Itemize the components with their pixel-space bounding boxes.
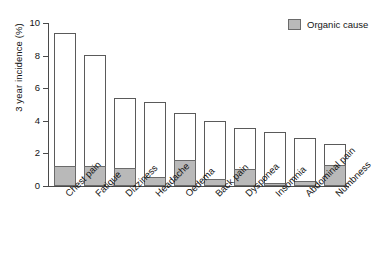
bar-group[interactable] (264, 23, 286, 186)
bar-organic-cause[interactable] (324, 165, 346, 186)
legend: Organic cause (288, 19, 368, 30)
bar-organic-cause[interactable] (54, 166, 76, 186)
bar-group[interactable] (234, 23, 256, 186)
y-tick-label: 10 (29, 17, 40, 28)
bar-group[interactable] (114, 23, 136, 186)
bar-total[interactable] (264, 132, 286, 186)
bar-group[interactable] (324, 23, 346, 186)
bar-series (48, 23, 348, 186)
bar-total[interactable] (204, 121, 226, 186)
legend-label-organic-cause: Organic cause (307, 19, 368, 30)
bar-group[interactable] (84, 23, 106, 186)
bar-group[interactable] (174, 23, 196, 186)
bar-organic-cause[interactable] (234, 169, 256, 186)
bar-organic-cause[interactable] (204, 179, 226, 186)
bar-total[interactable] (144, 102, 166, 186)
bar-organic-cause[interactable] (84, 166, 106, 186)
y-tick-label: 0 (35, 180, 40, 191)
bar-group[interactable] (294, 23, 316, 186)
bar-organic-cause[interactable] (174, 160, 196, 186)
x-axis-line (48, 186, 349, 187)
bar-total[interactable] (54, 33, 76, 186)
plot-area: 0246810 (48, 23, 348, 186)
legend-swatch-organic-cause (288, 19, 301, 30)
y-tick: 0 (43, 186, 48, 187)
bar-group[interactable] (54, 23, 76, 186)
chart-figure: 3 year incidence (%) 0246810 Chest painF… (0, 0, 383, 254)
y-tick-label: 8 (35, 50, 40, 61)
bar-group[interactable] (144, 23, 166, 186)
y-axis-label: 3 year incidence (%) (13, 0, 24, 148)
bar-organic-cause[interactable] (114, 168, 136, 186)
bar-total[interactable] (294, 138, 316, 186)
y-tick-label: 2 (35, 147, 40, 158)
y-tick-label: 4 (35, 115, 40, 126)
bar-group[interactable] (204, 23, 226, 186)
bar-organic-cause[interactable] (144, 177, 166, 186)
bar-organic-cause[interactable] (294, 181, 316, 186)
y-tick-label: 6 (35, 82, 40, 93)
bar-organic-cause[interactable] (264, 183, 286, 186)
